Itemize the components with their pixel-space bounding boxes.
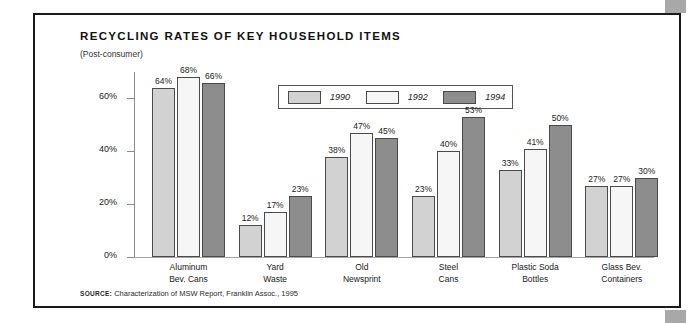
category-label-line: Yard xyxy=(239,262,312,274)
bar-value-label: 23% xyxy=(415,184,432,194)
bar-value-label: 17% xyxy=(267,200,284,210)
bar-rect xyxy=(202,83,225,257)
bar-value-label: 30% xyxy=(638,166,655,176)
bar-rect xyxy=(375,138,398,257)
category-label-line: Aluminum xyxy=(152,262,225,274)
bar-value-label: 45% xyxy=(378,126,395,136)
bar-value-label: 12% xyxy=(242,213,259,223)
category-label: Glass Bev.Containers xyxy=(585,262,658,285)
bar-1990[interactable]: 12% xyxy=(239,72,262,257)
source-note-label: SOURCE: xyxy=(80,290,112,297)
category-label: AluminumBev. Cans xyxy=(152,262,225,285)
bar-1992[interactable]: 47% xyxy=(350,72,373,257)
bar-1994[interactable]: 50% xyxy=(549,72,572,257)
bar-rect xyxy=(610,186,633,257)
bar-group: 33%41%50% xyxy=(499,72,572,257)
bar-rect xyxy=(350,133,373,257)
bar-1992[interactable]: 17% xyxy=(264,72,287,257)
bar-rect xyxy=(325,157,348,257)
bar-rect xyxy=(152,88,175,257)
bar-1992[interactable]: 68% xyxy=(177,72,200,257)
chart-title: RECYCLING RATES OF KEY HOUSEHOLD ITEMS xyxy=(80,30,401,42)
source-note: SOURCE: Characterization of MSW Report, … xyxy=(80,289,298,298)
category-label-line: Old xyxy=(325,262,398,274)
bar-group: 64%68%66% xyxy=(152,72,225,257)
category-label-line: Bottles xyxy=(499,274,572,286)
page-edge-artifact-bottom-right xyxy=(665,310,686,323)
bar-value-label: 41% xyxy=(527,137,544,147)
category-label-line: Plastic Soda xyxy=(499,262,572,274)
bar-value-label: 53% xyxy=(465,105,482,115)
category-label-line: Steel xyxy=(412,262,485,274)
y-tick-0: 0% xyxy=(127,257,134,258)
bar-1990[interactable]: 27% xyxy=(585,72,608,257)
bar-1994[interactable]: 53% xyxy=(462,72,485,257)
bar-value-label: 64% xyxy=(155,76,172,86)
bar-groups: 64%68%66%12%17%23%38%47%45%23%40%53%33%4… xyxy=(134,72,654,257)
bar-group: 27%27%30% xyxy=(585,72,658,257)
bar-value-label: 33% xyxy=(502,158,519,168)
bar-rect xyxy=(462,117,485,257)
category-label-line: Cans xyxy=(412,274,485,286)
bar-rect xyxy=(524,149,547,257)
bar-group: 23%40%53% xyxy=(412,72,485,257)
chart-subtitle: (Post-consumer) xyxy=(80,49,143,59)
source-note-text: Characterization of MSW Report, Franklin… xyxy=(114,289,298,298)
bar-value-label: 27% xyxy=(588,174,605,184)
bar-value-label: 66% xyxy=(205,71,222,81)
bar-1990[interactable]: 33% xyxy=(499,72,522,257)
bar-rect xyxy=(289,196,312,257)
bar-1992[interactable]: 41% xyxy=(524,72,547,257)
x-axis-line xyxy=(134,257,654,258)
bar-1994[interactable]: 66% xyxy=(202,72,225,257)
y-tick-20: 20% xyxy=(127,204,134,205)
y-tick-label-40: 40% xyxy=(99,144,117,154)
y-tick-40: 40% xyxy=(127,151,134,152)
bar-rect xyxy=(585,186,608,257)
plot-area: 0%20%40%60% 64%68%66%12%17%23%38%47%45%2… xyxy=(134,72,654,257)
bar-1990[interactable]: 38% xyxy=(325,72,348,257)
bar-1990[interactable]: 64% xyxy=(152,72,175,257)
bar-1994[interactable]: 23% xyxy=(289,72,312,257)
category-label-line: Glass Bev. xyxy=(585,262,658,274)
category-label: Plastic SodaBottles xyxy=(499,262,572,285)
bar-value-label: 50% xyxy=(552,113,569,123)
bar-rect xyxy=(635,178,658,257)
bar-1992[interactable]: 40% xyxy=(437,72,460,257)
bar-value-label: 38% xyxy=(328,145,345,155)
chart-figure-frame: RECYCLING RATES OF KEY HOUSEHOLD ITEMS (… xyxy=(33,13,681,308)
bar-rect xyxy=(239,225,262,257)
category-label: OldNewsprint xyxy=(325,262,398,285)
bar-value-label: 68% xyxy=(180,65,197,75)
bar-value-label: 40% xyxy=(440,139,457,149)
category-label-line: Containers xyxy=(585,274,658,286)
bar-rect xyxy=(499,170,522,257)
y-tick-label-60: 60% xyxy=(99,91,117,101)
bar-value-label: 23% xyxy=(292,184,309,194)
page-edge-artifact-top-right xyxy=(665,0,686,13)
bar-group: 12%17%23% xyxy=(239,72,312,257)
bar-value-label: 47% xyxy=(353,121,370,131)
bar-rect xyxy=(549,125,572,257)
bar-1994[interactable]: 45% xyxy=(375,72,398,257)
bar-rect xyxy=(177,77,200,257)
bar-rect xyxy=(437,151,460,257)
y-tick-label-0: 0% xyxy=(104,250,117,260)
bar-1990[interactable]: 23% xyxy=(412,72,435,257)
category-label-line: Waste xyxy=(239,274,312,286)
bar-rect xyxy=(412,196,435,257)
bar-rect xyxy=(264,212,287,257)
bar-value-label: 27% xyxy=(613,174,630,184)
category-label-line: Bev. Cans xyxy=(152,274,225,286)
y-tick-60: 60% xyxy=(127,98,134,99)
bar-1994[interactable]: 30% xyxy=(635,72,658,257)
category-label-line: Newsprint xyxy=(325,274,398,286)
category-label: YardWaste xyxy=(239,262,312,285)
bar-group: 38%47%45% xyxy=(325,72,398,257)
y-tick-label-20: 20% xyxy=(99,197,117,207)
bar-1992[interactable]: 27% xyxy=(610,72,633,257)
category-label: SteelCans xyxy=(412,262,485,285)
